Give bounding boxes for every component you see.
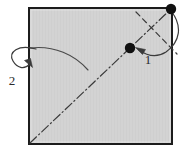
step-label-1: 1 [145, 52, 152, 67]
corner-point [166, 4, 176, 14]
target-point [125, 43, 135, 53]
figure-canvas: 1 2 [0, 0, 182, 151]
step-label-2: 2 [9, 73, 16, 88]
origami-figure: 1 2 [0, 0, 182, 151]
